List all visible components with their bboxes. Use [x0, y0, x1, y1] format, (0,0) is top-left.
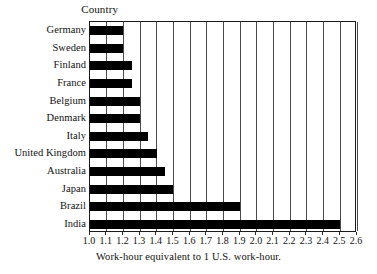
bar — [90, 220, 340, 229]
gridline — [306, 22, 307, 231]
bar — [90, 61, 132, 70]
category-label: Sweden — [0, 42, 86, 53]
category-label: India — [0, 218, 86, 229]
gridline — [156, 22, 157, 231]
gridline — [123, 22, 124, 231]
category-label: United Kingdom — [0, 147, 86, 158]
category-label: Belgium — [0, 95, 86, 106]
category-label: Finland — [0, 59, 86, 70]
bar — [90, 114, 140, 123]
plot-area — [89, 21, 356, 232]
gridline — [340, 22, 341, 231]
gridline — [290, 22, 291, 231]
category-label: Italy — [0, 130, 86, 141]
bar — [90, 132, 148, 141]
bar — [90, 79, 132, 88]
gridline — [223, 22, 224, 231]
category-label: Denmark — [0, 112, 86, 123]
bar — [90, 44, 123, 53]
country-header-label: Country — [0, 3, 118, 16]
category-label: Brazil — [0, 200, 86, 211]
chart-caption: Work-hour equivalent to 1 U.S. work-hour… — [0, 250, 377, 263]
gridline — [206, 22, 207, 231]
tick-label: 2.6 — [341, 235, 371, 247]
bar-chart-figure: Country GermanySwedenFinlandFranceBelgiu… — [0, 0, 377, 274]
category-label: Japan — [0, 183, 86, 194]
bar — [90, 149, 157, 158]
category-label: Germany — [0, 24, 86, 35]
category-axis-labels: GermanySwedenFinlandFranceBelgiumDenmark… — [0, 21, 86, 232]
plot-inner — [90, 22, 355, 231]
bar — [90, 97, 140, 106]
bar — [90, 167, 165, 176]
gridline — [106, 22, 107, 231]
gridline — [323, 22, 324, 231]
gridline — [190, 22, 191, 231]
category-label: France — [0, 77, 86, 88]
gridline — [173, 22, 174, 231]
gridline — [273, 22, 274, 231]
gridline — [140, 22, 141, 231]
bar — [90, 202, 240, 211]
value-axis-ticks: 1.01.11.21.31.41.51.61.71.81.92.02.12.22… — [89, 232, 356, 248]
bar — [90, 185, 173, 194]
gridline — [357, 22, 358, 231]
gridline — [256, 22, 257, 231]
category-label: Australia — [0, 165, 86, 176]
bar — [90, 26, 123, 35]
gridline — [240, 22, 241, 231]
